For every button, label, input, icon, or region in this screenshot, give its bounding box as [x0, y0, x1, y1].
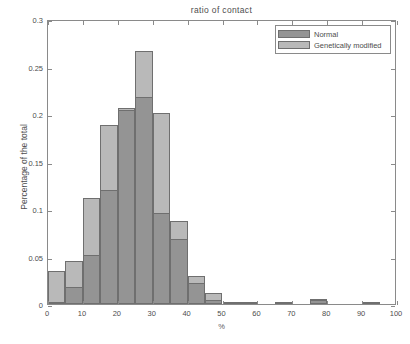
- y-axis-tick: [48, 259, 52, 260]
- x-axis-tick: [118, 301, 119, 305]
- y-axis-tick: [48, 21, 52, 22]
- x-axis-tick-label: 0: [45, 309, 49, 318]
- x-axis-tick-label: 100: [390, 309, 403, 318]
- bar-segment-normal: [188, 283, 205, 304]
- legend-swatch-genetically-modified: [278, 41, 310, 49]
- x-axis-tick: [188, 301, 189, 305]
- y-axis-tick-right: [391, 69, 395, 70]
- y-axis-tick: [48, 164, 52, 165]
- histogram-bar: [48, 271, 65, 304]
- x-axis-tick: [223, 301, 224, 305]
- x-axis-tick-top: [83, 21, 84, 25]
- histogram-bar: [118, 108, 135, 304]
- y-axis-tick: [48, 306, 52, 307]
- figure-canvas: ratio of contact Percentage of the total…: [0, 0, 410, 344]
- histogram-bar: [362, 303, 379, 304]
- bars-layer: [48, 21, 395, 304]
- x-axis-tick-label: 20: [113, 309, 121, 318]
- x-axis-tick: [292, 301, 293, 305]
- bar-segment-normal: [205, 300, 222, 304]
- bar-segment-normal: [362, 302, 379, 304]
- x-axis-tick: [153, 301, 154, 305]
- bar-segment-normal: [310, 300, 327, 304]
- bar-segment-normal: [223, 302, 240, 304]
- bar-segment-normal: [83, 255, 100, 304]
- legend-label-normal: Normal: [314, 30, 338, 39]
- histogram-bar: [100, 125, 117, 304]
- x-axis-tick: [48, 301, 49, 305]
- y-axis-tick: [48, 69, 52, 70]
- x-axis-tick-label: 10: [78, 309, 86, 318]
- y-axis-tick-right: [391, 21, 395, 22]
- y-axis-tick-label: 0.15: [6, 158, 43, 167]
- y-axis-tick-label: 0: [6, 301, 43, 310]
- bar-segment-normal: [118, 110, 135, 304]
- legend-item-genetically-modified[interactable]: Genetically modified: [278, 40, 388, 50]
- plot-area: [47, 20, 396, 305]
- bar-segment-normal: [135, 97, 152, 304]
- histogram-bar: [223, 303, 240, 304]
- y-axis-tick-label: 0.05: [6, 253, 43, 262]
- bar-segment-normal: [65, 287, 82, 304]
- y-axis-tick: [48, 116, 52, 117]
- x-axis-tick-top: [188, 21, 189, 25]
- histogram-bar: [275, 303, 292, 304]
- y-axis-tick-label: 0.25: [6, 63, 43, 72]
- x-axis-tick-label: 90: [357, 309, 365, 318]
- x-axis-tick-label: 40: [182, 309, 190, 318]
- legend-item-normal[interactable]: Normal: [278, 29, 388, 39]
- x-axis-tick-label: 60: [252, 309, 260, 318]
- x-axis-tick-top: [153, 21, 154, 25]
- histogram-bar: [65, 261, 82, 304]
- histogram-bar: [240, 303, 257, 304]
- x-axis-tick: [362, 301, 363, 305]
- x-axis-tick-top: [257, 21, 258, 25]
- legend-label-genetically-modified: Genetically modified: [314, 41, 382, 50]
- bar-segment-normal: [48, 302, 65, 304]
- bar-segment-normal: [153, 213, 170, 304]
- histogram-bar: [83, 198, 100, 304]
- x-axis-label: %: [47, 322, 396, 331]
- bar-segment-genetically-modified: [48, 271, 65, 304]
- bar-segment-normal: [240, 302, 257, 304]
- x-axis-tick-top: [397, 21, 398, 25]
- bar-segment-normal: [275, 302, 292, 304]
- bar-segment-normal: [100, 190, 117, 304]
- x-axis-tick: [83, 301, 84, 305]
- histogram-bar: [310, 299, 327, 304]
- y-axis-tick-label: 0.1: [6, 206, 43, 215]
- x-axis-tick-top: [118, 21, 119, 25]
- y-axis-tick-right: [391, 116, 395, 117]
- bar-segment-normal: [170, 239, 187, 304]
- histogram-bar: [188, 276, 205, 304]
- y-axis-tick-right: [391, 259, 395, 260]
- legend: Normal Genetically modified: [275, 25, 391, 54]
- y-axis-tick-right: [391, 306, 395, 307]
- x-axis-tick: [257, 301, 258, 305]
- x-axis-tick-label: 80: [322, 309, 330, 318]
- x-axis-tick-label: 70: [287, 309, 295, 318]
- histogram-bar: [170, 221, 187, 304]
- chart-title: ratio of contact: [47, 5, 396, 15]
- x-axis-tick: [327, 301, 328, 305]
- histogram-bar: [153, 113, 170, 304]
- x-axis-tick-label: 30: [148, 309, 156, 318]
- y-axis-tick-label: 0.3: [6, 16, 43, 25]
- x-axis-tick-top: [223, 21, 224, 25]
- x-axis-tick-label: 50: [217, 309, 225, 318]
- y-axis-tick-right: [391, 164, 395, 165]
- x-axis-tick: [397, 301, 398, 305]
- y-axis-tick-right: [391, 211, 395, 212]
- legend-swatch-normal: [278, 30, 310, 38]
- y-axis-tick: [48, 211, 52, 212]
- y-axis-tick-label: 0.2: [6, 111, 43, 120]
- histogram-bar: [135, 51, 152, 304]
- histogram-bar: [205, 293, 222, 304]
